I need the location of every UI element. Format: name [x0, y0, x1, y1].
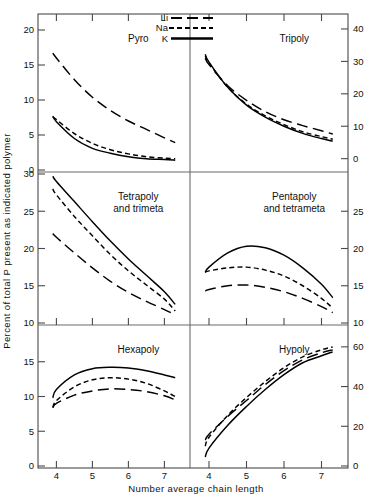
x-tick-label: 4 [206, 470, 211, 481]
curve-hypoly-Li [205, 350, 333, 440]
y-tick-label: 10 [23, 391, 34, 402]
x-tick-label: 7 [319, 470, 324, 481]
legend-label-k: K [162, 33, 169, 44]
panel-label-tetrapoly-line2: and trimeta [113, 203, 163, 214]
y-tick-label: 30 [23, 168, 34, 179]
curve-pyro-K [53, 116, 175, 160]
y-tick-label: 25 [23, 206, 34, 217]
y-tick-label: 20 [353, 243, 364, 254]
y-tick-label: 15 [23, 356, 34, 367]
y-tick-label: 10 [353, 317, 364, 328]
x-tick-label: 7 [162, 470, 167, 481]
panel-label-pentapoly-line2: and tetrameta [263, 203, 325, 214]
y-tick-label: 25 [353, 206, 364, 217]
curve-pentapoly-Li [205, 285, 333, 313]
axis-tick-labels: 0510152001020304010152025301015202505101… [23, 23, 363, 481]
curve-pentapoly-Na [205, 267, 333, 308]
x-tick-label: 6 [281, 470, 286, 481]
y-tick-label: 20 [353, 88, 364, 99]
axis-ticks [38, 14, 348, 468]
legend: Li Na K [156, 12, 213, 44]
curve-pentapoly-K [205, 246, 333, 298]
legend-label-na: Na [156, 22, 169, 33]
panel-label-pentapoly: Pentapoly [272, 191, 316, 202]
x-tick-label: 5 [244, 470, 249, 481]
y-tick-label: 5 [29, 426, 34, 437]
curve-tetrapoly-Li [53, 234, 175, 315]
y-tick-label: 10 [23, 94, 34, 105]
curve-tripoly-Na [205, 56, 333, 140]
y-tick-label: 10 [23, 317, 34, 328]
y-tick-label: 10 [353, 121, 364, 132]
y-tick-label: 40 [353, 23, 364, 34]
y-tick-label: 20 [23, 24, 34, 35]
data-curves [53, 53, 333, 457]
y-tick-label: 15 [23, 280, 34, 291]
x-tick-label: 5 [90, 470, 95, 481]
y-tick-label: 20 [23, 243, 34, 254]
multi-panel-line-chart: 0510152001020304010152025301015202505101… [0, 0, 382, 502]
panel-label-tripoly: Tripoly [279, 33, 309, 44]
y-tick-label: 15 [23, 59, 34, 70]
curve-pyro-Li [53, 53, 175, 143]
curve-hypoly-K [205, 352, 333, 457]
panel-label-tetrapoly: Tetrapoly [118, 191, 159, 202]
curve-pyro-Na [53, 117, 175, 159]
x-axis-title: Number average chain length [128, 483, 263, 494]
panel-label-pyro: Pyro [128, 33, 149, 44]
chart-page: 0510152001020304010152025301015202505101… [0, 0, 382, 502]
y-tick-label: 0 [29, 460, 34, 471]
plot-frame [38, 14, 348, 468]
curve-hexapoly-Na [53, 378, 175, 408]
y-tick-label: 20 [353, 421, 364, 432]
y-tick-label: 30 [353, 56, 364, 67]
y-tick-label: 40 [353, 381, 364, 392]
y-tick-label: 15 [353, 280, 364, 291]
panel-label-hypoly: Hypoly [279, 344, 310, 355]
y-tick-label: 60 [353, 341, 364, 352]
x-tick-label: 4 [54, 470, 59, 481]
y-tick-label: 0 [353, 460, 358, 471]
curve-hexapoly-Li [53, 389, 175, 408]
x-tick-label: 6 [126, 470, 131, 481]
y-tick-label: 5 [29, 129, 34, 140]
panel-labels: PyroTripolyTetrapolyand trimetaPentapoly… [113, 33, 325, 355]
y-tick-label: 0 [353, 153, 358, 164]
curve-hypoly-Na [205, 347, 333, 446]
curve-tripoly-Li [205, 58, 333, 134]
y-axis-title: Percent of total P present as indicated … [1, 133, 12, 349]
panel-label-hexapoly: Hexapoly [117, 344, 159, 355]
